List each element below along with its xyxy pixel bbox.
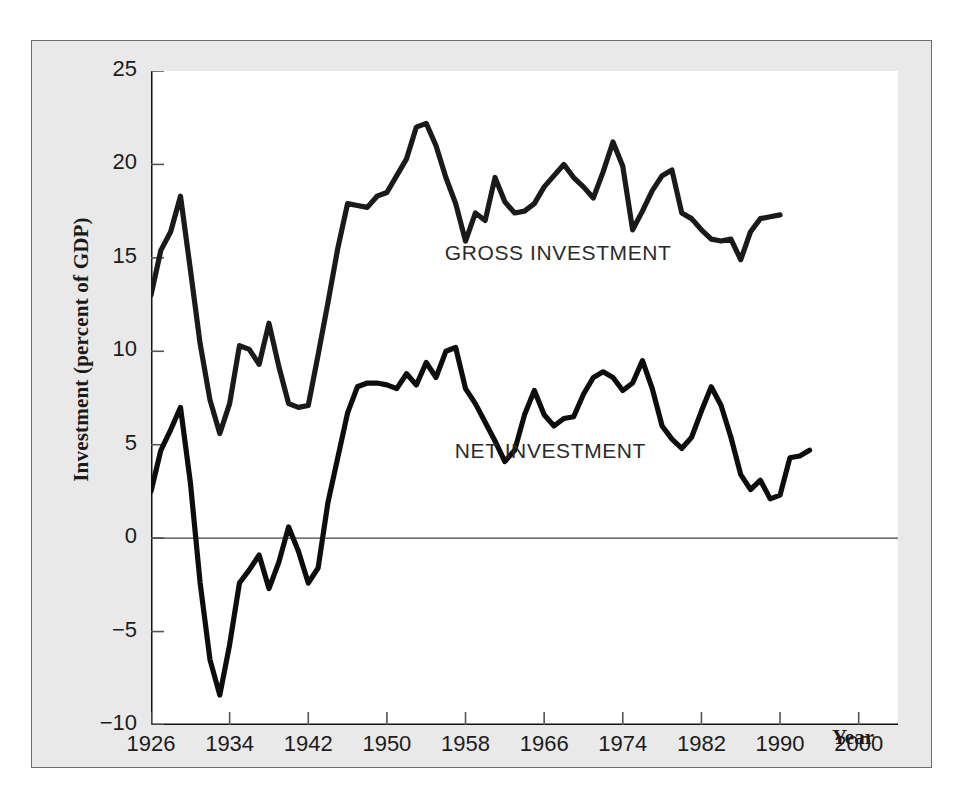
x-tick-label: 1926	[106, 731, 196, 757]
figure-frame: Investment (percent of GDP) Year 2520151…	[31, 40, 932, 768]
x-tick-label: 1958	[421, 731, 511, 757]
gross-investment-label: GROSS INVESTMENT	[445, 241, 672, 265]
x-tick-label: 2000	[814, 731, 904, 757]
x-tick-label: 1974	[578, 731, 668, 757]
x-tick-label: 1934	[185, 731, 275, 757]
y-tick-label: 25	[71, 56, 137, 82]
y-tick-marks	[151, 71, 164, 725]
x-tick-label: 1950	[342, 731, 432, 757]
y-tick-label: −5	[71, 617, 137, 643]
x-tick-label: 1982	[656, 731, 746, 757]
x-tick-label: 1942	[263, 731, 353, 757]
y-tick-label: 20	[71, 149, 137, 175]
net-investment-line	[151, 348, 810, 696]
investment-line-chart	[151, 71, 898, 725]
x-tick-marks	[151, 712, 859, 725]
plot-area: GROSS INVESTMENT NET INVESTMENT	[151, 71, 898, 725]
y-tick-label: 0	[71, 523, 137, 549]
y-tick-label: 5	[71, 430, 137, 456]
x-tick-label: 1966	[499, 731, 589, 757]
y-tick-label: 10	[71, 336, 137, 362]
axis-lines	[151, 71, 898, 725]
x-tick-label: 1990	[735, 731, 825, 757]
net-investment-label: NET INVESTMENT	[455, 439, 646, 463]
chart-page: Investment (percent of GDP) Year 2520151…	[0, 0, 964, 796]
y-tick-label: 15	[71, 243, 137, 269]
